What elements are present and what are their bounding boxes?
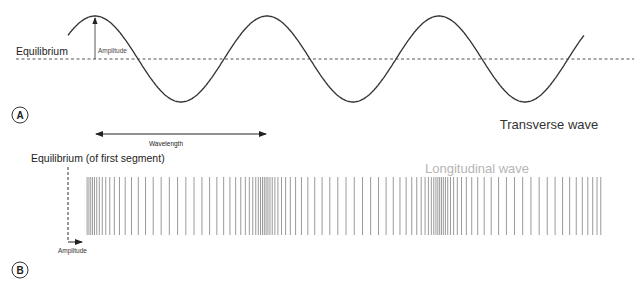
equilibrium-label: Equilibrium <box>16 45 68 57</box>
panel-a: Equilibrium Amplitude Wavelength Transve… <box>12 16 634 148</box>
amplitude-label: Amplitude <box>98 47 127 55</box>
panel-b-badge-label: B <box>16 265 23 276</box>
panel-a-badge-label: A <box>16 110 23 121</box>
amplitude-label-b: Amplitude <box>58 247 87 255</box>
wave-diagram: Equilibrium Amplitude Wavelength Transve… <box>0 0 639 286</box>
transverse-wave-title: Transverse wave <box>500 117 599 132</box>
panel-b: Equilibrium (of first segment) Amplitude… <box>12 152 601 278</box>
longitudinal-wave-bars <box>87 177 601 235</box>
equilibrium-first-segment-label: Equilibrium (of first segment) <box>31 152 165 164</box>
wavelength-label: Wavelength <box>149 140 183 148</box>
longitudinal-wave-title: Longitudinal wave <box>425 161 529 176</box>
